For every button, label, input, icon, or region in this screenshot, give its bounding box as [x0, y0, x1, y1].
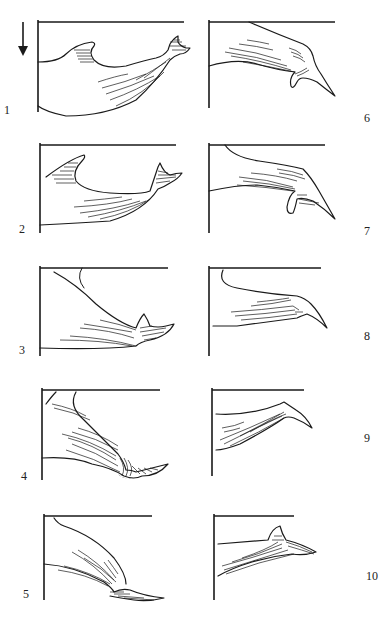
panel-4-drawing: [42, 388, 188, 488]
panel-3-number: 3: [19, 344, 25, 356]
panel-9-number: 9: [364, 432, 370, 444]
panel-2-drawing: [40, 143, 186, 233]
panel-2: 2: [40, 143, 186, 233]
panel-8: 8: [207, 266, 337, 358]
panel-5-drawing: [44, 514, 190, 604]
panel-10: 10: [212, 514, 342, 604]
panel-1-drawing: [36, 20, 186, 120]
panel-8-drawing: [207, 266, 337, 358]
panel-7-number: 7: [364, 225, 370, 237]
panel-1: 1: [36, 20, 186, 120]
panel-7-drawing: [207, 143, 337, 233]
panel-5-number: 5: [23, 588, 29, 600]
down-arrow-icon: [16, 22, 30, 62]
panel-1-number: 1: [4, 104, 10, 116]
panel-6: 6: [207, 20, 337, 120]
panel-10-number: 10: [366, 570, 378, 582]
panel-7: 7: [207, 143, 337, 233]
panel-6-number: 6: [364, 112, 370, 124]
panel-5: 5: [44, 514, 190, 604]
panel-8-number: 8: [364, 330, 370, 342]
panel-3: 3: [40, 266, 186, 358]
panel-9: 9: [210, 388, 340, 488]
panel-3-drawing: [40, 266, 186, 358]
panel-4: 4: [42, 388, 188, 488]
panel-9-drawing: [210, 388, 340, 488]
panel-10-drawing: [212, 514, 342, 604]
panel-2-number: 2: [19, 223, 25, 235]
panel-6-drawing: [207, 20, 337, 120]
panel-4-number: 4: [21, 470, 27, 482]
